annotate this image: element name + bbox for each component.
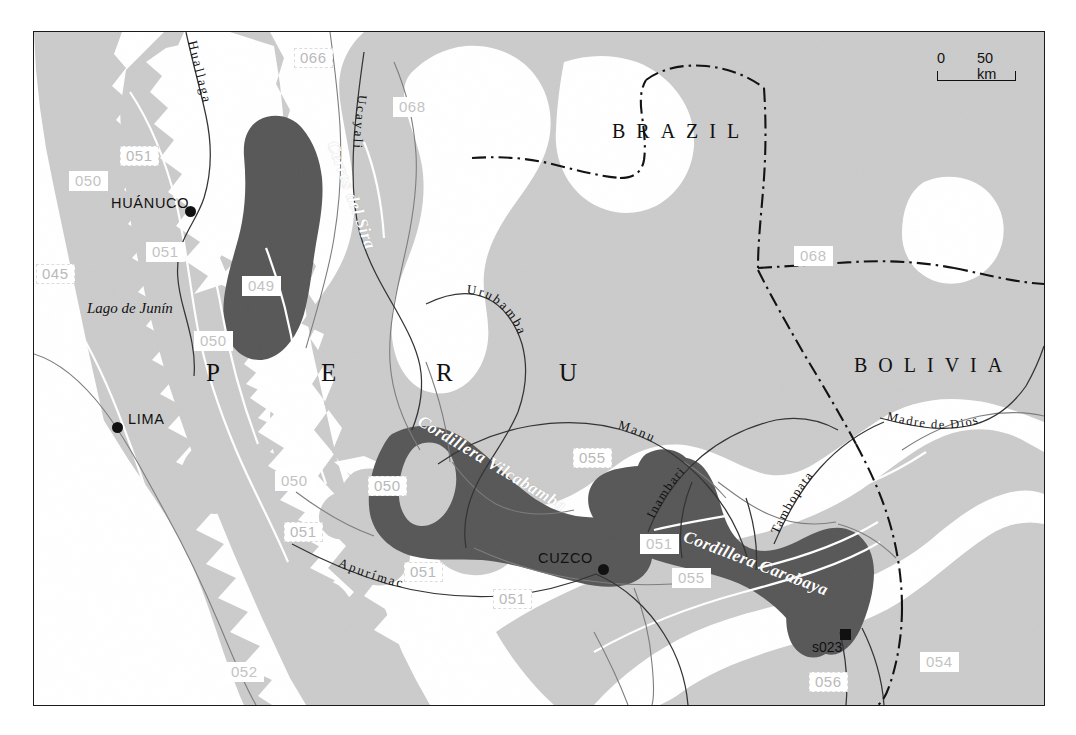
- polygon-code: 050: [368, 476, 407, 496]
- map-graphic: Huallaga Ucayali Urubamba Manu Apurímac: [34, 32, 1044, 705]
- city-marker-huanuco: [185, 206, 196, 217]
- polygon-code: 051: [284, 522, 323, 542]
- polygon-code: 050: [69, 171, 108, 191]
- polygon-code: 050: [275, 471, 314, 491]
- polygon-code: 054: [920, 652, 959, 672]
- map-frame: Huallaga Ucayali Urubamba Manu Apurímac: [33, 31, 1045, 706]
- polygon-code: 051: [640, 534, 679, 554]
- polygon-code: 055: [672, 568, 711, 588]
- scale-bar: 0 50 km: [937, 50, 1016, 81]
- city-marker-lima: [112, 422, 123, 433]
- polygon-code: 068: [794, 246, 833, 266]
- site-marker-s023: [840, 629, 851, 640]
- city-marker-cuzco: [598, 564, 609, 575]
- polygon-code: 068: [393, 97, 432, 117]
- polygon-code: 055: [573, 448, 612, 468]
- polygon-code: 051: [493, 589, 532, 609]
- polygon-code: 056: [809, 672, 848, 692]
- polygon-code: 051: [120, 146, 159, 166]
- polygon-code: 051: [404, 562, 443, 582]
- polygon-code: 052: [225, 662, 264, 682]
- map-figure: Huallaga Ucayali Urubamba Manu Apurímac: [0, 0, 1076, 735]
- polygon-code: 051: [146, 242, 185, 262]
- polygon-code: 045: [36, 264, 75, 284]
- polygon-code: 050: [194, 331, 233, 351]
- scale-bar-ruler: [937, 71, 1016, 81]
- polygon-code: 049: [242, 276, 281, 296]
- scale-bar-zero: 0: [937, 50, 945, 66]
- polygon-code: 066: [294, 48, 333, 68]
